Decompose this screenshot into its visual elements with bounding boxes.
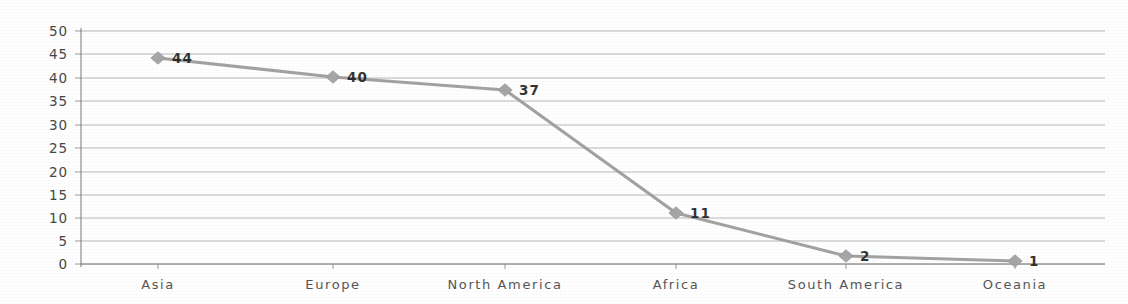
y-axis (75, 28, 81, 267)
x-tick-label-north-america: North America (448, 277, 563, 292)
data-point-marker-oceania (1008, 255, 1022, 267)
y-tick-label-45: 45 (49, 46, 68, 62)
data-point-marker-europe (326, 71, 340, 83)
data-point-label-south-america: 2 (860, 248, 871, 264)
data-point-label-north-america: 37 (519, 82, 540, 98)
x-tick-label-south-america: South America (788, 277, 904, 292)
series-line-group (158, 58, 1015, 261)
data-point-marker-south-america (839, 250, 853, 262)
y-tick-label-40: 40 (49, 70, 68, 86)
y-tick-label-20: 20 (49, 164, 68, 180)
x-tick-label-oceania: Oceania (983, 277, 1047, 292)
y-tick-label-25: 25 (49, 140, 68, 156)
x-tick-label-africa: Africa (653, 277, 700, 292)
y-tick-label-35: 35 (49, 93, 68, 109)
line-chart: 50454035302520151050 AsiaEuropeNorth Ame… (0, 0, 1128, 304)
y-tick-label-50: 50 (49, 23, 68, 39)
x-axis (81, 264, 1105, 269)
x-tick-label-europe: Europe (305, 277, 360, 292)
chart-canvas: 50454035302520151050 AsiaEuropeNorth Ame… (0, 0, 1128, 304)
y-tick-label-10: 10 (49, 210, 68, 226)
data-point-label-oceania: 1 (1029, 253, 1040, 269)
data-point-label-europe: 40 (347, 69, 368, 85)
y-tick-label-0: 0 (59, 256, 69, 272)
y-tick-label-30: 30 (49, 117, 68, 133)
x-tick-label-asia: Asia (141, 277, 175, 292)
data-point-labels: 4440371121 (172, 50, 1040, 269)
series-line-Series 1 (158, 58, 1015, 261)
data-point-label-asia: 44 (172, 50, 193, 66)
x-tick-labels: AsiaEuropeNorth AmericaAfricaSouth Ameri… (141, 277, 1047, 292)
series-markers-group (151, 52, 1022, 267)
data-point-label-africa: 11 (690, 205, 711, 221)
y-tick-label-5: 5 (59, 233, 69, 249)
y-tick-labels: 50454035302520151050 (49, 23, 68, 272)
y-tick-label-15: 15 (49, 187, 68, 203)
